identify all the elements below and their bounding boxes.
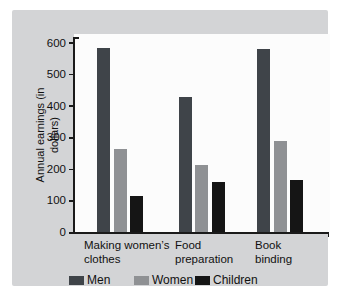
y-axis-end-cap xyxy=(74,37,79,39)
legend-swatch-women xyxy=(134,276,149,285)
y-axis-line xyxy=(73,37,75,233)
y-tick-label-0: 0 xyxy=(30,226,66,239)
bar-men-1 xyxy=(97,48,110,233)
y-tick-300 xyxy=(69,137,74,139)
y-tick-label-300: 300 xyxy=(30,131,66,144)
bar-men-3 xyxy=(257,49,270,232)
bar-women-2 xyxy=(195,165,208,233)
legend-label-children: Children xyxy=(213,273,258,288)
bar-men-2 xyxy=(179,97,192,233)
bar-women-1 xyxy=(114,149,127,233)
legend-label-women: Women xyxy=(152,273,193,288)
y-tick-label-400: 400 xyxy=(30,100,66,113)
y-tick-500 xyxy=(69,74,74,76)
category-label-1-line-1: Making women’s xyxy=(84,239,184,253)
legend-swatch-men xyxy=(69,276,84,285)
y-tick-200 xyxy=(69,169,74,171)
chart-panel: Annual earnings (in dollars) 01002003004… xyxy=(12,10,328,286)
y-tick-600 xyxy=(69,42,74,44)
y-tick-label-500: 500 xyxy=(30,68,66,81)
category-label-3-line-1: Book xyxy=(255,239,341,253)
bar-children-3 xyxy=(290,180,303,232)
y-tick-label-200: 200 xyxy=(30,163,66,176)
figure: Annual earnings (in dollars) 01002003004… xyxy=(0,0,341,304)
y-tick-label-600: 600 xyxy=(30,37,66,50)
bar-children-1 xyxy=(130,196,143,232)
legend-label-men: Men xyxy=(87,273,110,288)
category-label-3-line-2: binding xyxy=(255,253,341,267)
category-label-3: Bookbinding xyxy=(255,239,341,266)
x-axis-end-cap xyxy=(328,232,330,237)
bar-women-3 xyxy=(274,141,287,233)
category-label-1-line-2: clothes xyxy=(84,253,184,267)
y-tick-400 xyxy=(69,105,74,107)
bar-children-2 xyxy=(212,182,225,233)
legend-swatch-children xyxy=(195,276,210,285)
y-tick-label-100: 100 xyxy=(30,194,66,207)
category-label-1: Making women’sclothes xyxy=(84,239,184,266)
y-tick-100 xyxy=(69,200,74,202)
